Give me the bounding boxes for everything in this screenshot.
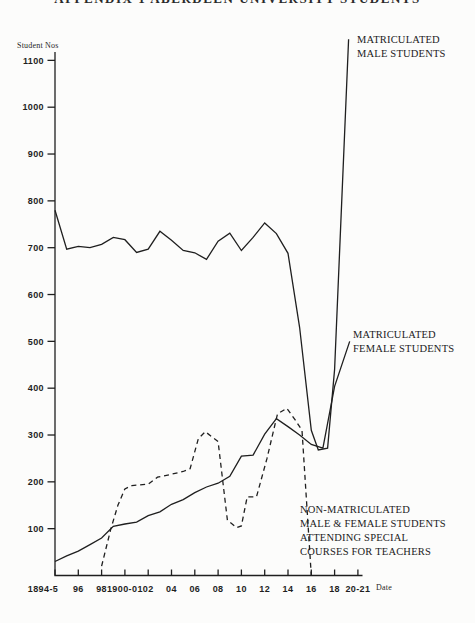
y-tick-label: 900 xyxy=(28,149,44,159)
y-tick-label: 800 xyxy=(28,196,44,206)
x-tick-label: 18 xyxy=(329,584,340,594)
y-tick-label: 300 xyxy=(28,430,44,440)
y-tick-label: 500 xyxy=(28,337,44,347)
chart-page: APPENDIX 1 ABERDEEN UNIVERSITY STUDENTS … xyxy=(0,0,475,623)
y-tick-label: 200 xyxy=(28,477,44,487)
x-tick-label: 98 xyxy=(96,584,107,594)
x-tick-label: 02 xyxy=(143,584,154,594)
non-matriculated-male-and-female-students-attending-special-courses-for-teachers-line xyxy=(102,408,312,575)
y-tick-label: 700 xyxy=(28,243,44,253)
y-tick-label: 400 xyxy=(28,383,44,393)
x-tick-label: 96 xyxy=(73,584,84,594)
x-tick-label: 04 xyxy=(166,584,177,594)
x-tick-label: 1900-01 xyxy=(107,584,143,594)
axes xyxy=(55,52,363,576)
x-tick-label: 1894-5 xyxy=(28,584,58,594)
y-tick-label: 1000 xyxy=(22,102,44,112)
x-tick-label: 16 xyxy=(306,584,317,594)
y-tick-label: 600 xyxy=(28,290,44,300)
line-chart: 100200300400500600700800900100011001894-… xyxy=(0,0,475,623)
x-tick-label: 06 xyxy=(189,584,200,594)
x-tick-label: 10 xyxy=(236,584,247,594)
x-tick-label: 12 xyxy=(259,584,270,594)
x-tick-label: 08 xyxy=(213,584,224,594)
y-tick-label: 100 xyxy=(28,524,44,534)
y-tick-label: 1100 xyxy=(23,56,44,66)
matriculated-male-students-line xyxy=(55,39,349,450)
x-tick-label: 14 xyxy=(283,584,294,594)
x-tick-label: 20-21 xyxy=(345,584,370,594)
